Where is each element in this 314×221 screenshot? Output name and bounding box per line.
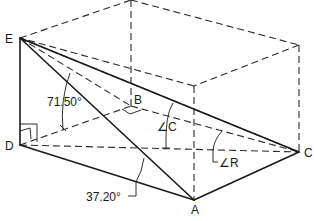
arc-angle-R bbox=[213, 131, 222, 150]
edge-top-back bbox=[131, 0, 299, 45]
edge-top-right bbox=[194, 45, 299, 86]
edge-AC bbox=[194, 152, 299, 200]
angle-marks bbox=[60, 73, 222, 196]
leader-37-20 bbox=[128, 182, 136, 196]
label-B: B bbox=[134, 93, 142, 107]
visible-edges bbox=[20, 38, 299, 200]
angle-label-R: ∠R bbox=[219, 156, 239, 170]
label-A: A bbox=[191, 203, 199, 217]
right-angle-D-outer bbox=[20, 124, 37, 142]
leader-angle-R bbox=[213, 150, 218, 162]
angle-label-C: ∠C bbox=[157, 120, 177, 134]
right-angle-markers bbox=[20, 109, 141, 142]
edge-top-left bbox=[20, 0, 131, 38]
angle-label-37-20: 37.20° bbox=[86, 190, 121, 204]
right-angle-D-inner bbox=[20, 128, 31, 139]
label-C: C bbox=[304, 146, 313, 160]
right-angle-B bbox=[122, 109, 141, 114]
box-diagram: E D B C A 71.50° 37.20° ∠C ∠R bbox=[0, 0, 314, 221]
label-E: E bbox=[5, 32, 13, 46]
edge-DC bbox=[20, 145, 299, 152]
label-D: D bbox=[5, 139, 14, 153]
angle-label-71-50: 71.50° bbox=[47, 95, 82, 109]
arc-37-20 bbox=[136, 158, 144, 182]
